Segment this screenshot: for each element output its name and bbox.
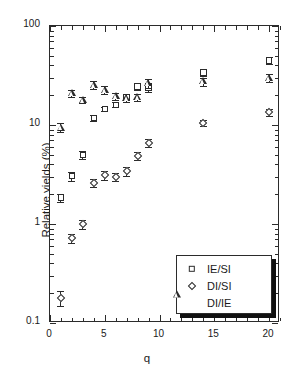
error-bar-cap-lower xyxy=(266,116,273,117)
y-tick-minor-right xyxy=(275,239,279,240)
error-bar xyxy=(115,173,116,182)
error-bar-cap-upper xyxy=(200,120,207,121)
error-bar-cap-lower xyxy=(101,111,108,112)
x-tick-label: 15 xyxy=(193,328,233,339)
y-tick-label: 1 xyxy=(0,216,40,227)
x-tick-minor-top xyxy=(149,26,150,30)
y-tick-minor-right xyxy=(275,177,279,178)
error-bar-cap-lower xyxy=(123,102,130,103)
y-tick-minor xyxy=(50,263,54,264)
x-tick-minor xyxy=(116,318,117,322)
data-point-di-si xyxy=(122,167,130,175)
error-bar xyxy=(71,90,72,97)
error-bar-cap-upper xyxy=(79,220,86,221)
error-bar-cap-upper xyxy=(112,173,119,174)
x-tick-minor-top xyxy=(116,26,117,30)
legend-entry: DI/SI xyxy=(177,277,273,295)
data-point-di-ie xyxy=(57,124,65,131)
error-bar-cap-upper xyxy=(68,234,75,235)
error-bar xyxy=(148,79,149,87)
legend-entry: DI/IE xyxy=(177,294,273,312)
x-tick-minor xyxy=(225,318,226,322)
y-tick-minor xyxy=(50,48,54,49)
error-bar xyxy=(269,74,270,82)
x-tick-minor-top xyxy=(192,26,193,30)
x-tick-minor xyxy=(236,318,237,322)
x-tick-label: 10 xyxy=(139,328,179,339)
data-point-ie-si xyxy=(145,84,151,90)
error-bar-cap-upper xyxy=(123,95,130,96)
y-tick-minor xyxy=(50,36,54,37)
error-bar-cap-upper xyxy=(123,167,130,168)
data-point-di-ie xyxy=(90,81,98,88)
y-tick-minor-right xyxy=(275,140,279,141)
error-bar-cap-lower xyxy=(101,180,108,181)
data-point-di-ie xyxy=(112,92,120,99)
data-point-di-ie xyxy=(144,79,152,86)
y-tick-label: 10 xyxy=(0,117,40,128)
error-bar-cap-lower xyxy=(101,94,108,95)
error-bar xyxy=(71,172,72,180)
x-tick-minor xyxy=(258,318,259,322)
y-tick-minor xyxy=(50,130,54,131)
legend-box: IE/SIDI/SIDI/IE xyxy=(176,255,272,314)
legend-marker-triangle-icon xyxy=(177,294,207,312)
error-bar-cap-upper xyxy=(79,97,86,98)
y-tick-minor xyxy=(50,140,54,141)
data-point-di-si xyxy=(79,220,87,228)
error-bar-cap-upper xyxy=(145,139,152,140)
x-tick-minor-top xyxy=(236,26,237,30)
y-tick-minor-right xyxy=(275,56,279,57)
error-bar-cap-upper xyxy=(123,94,130,95)
y-tick-minor xyxy=(50,147,54,148)
error-bar-cap-lower xyxy=(90,89,97,90)
y-tick-minor xyxy=(50,41,54,42)
error-bar-cap-lower xyxy=(68,243,75,244)
error-bar xyxy=(137,94,138,102)
error-bar xyxy=(269,109,270,116)
legend-marker-diamond-icon xyxy=(177,277,207,295)
y-tick-minor xyxy=(50,155,54,156)
y-tick-minor-right xyxy=(275,194,279,195)
x-tick-minor-top xyxy=(127,26,128,30)
data-point-ie-si xyxy=(69,173,75,179)
data-point-di-si xyxy=(199,119,207,127)
error-bar xyxy=(137,83,138,89)
data-point-di-si xyxy=(101,171,109,179)
y-tick-minor-right xyxy=(275,155,279,156)
error-bar-cap-upper xyxy=(90,115,97,116)
error-bar xyxy=(115,93,116,101)
y-tick-minor-right xyxy=(275,31,279,32)
error-bar xyxy=(126,167,127,176)
x-axis-title: q xyxy=(0,352,294,364)
error-bar-cap-lower xyxy=(112,181,119,182)
error-bar-cap-lower xyxy=(266,82,273,83)
x-tick-minor xyxy=(83,318,84,322)
data-point-di-ie xyxy=(122,94,130,101)
y-tick-minor xyxy=(50,164,54,165)
error-bar-cap-upper xyxy=(79,151,86,152)
x-tick-minor-top xyxy=(170,26,171,30)
data-point-di-si xyxy=(133,151,141,159)
x-tick-minor xyxy=(192,318,193,322)
error-bar xyxy=(269,57,270,64)
x-tick-minor xyxy=(94,318,95,322)
error-bar xyxy=(93,179,94,187)
x-tick-minor xyxy=(61,318,62,322)
y-tick-label: 0.1 xyxy=(0,315,40,326)
y-tick-minor xyxy=(50,276,54,277)
error-bar-cap-upper xyxy=(266,57,273,58)
y-tick-minor-right xyxy=(275,48,279,49)
legend-label: DI/SI xyxy=(207,280,231,292)
y-tick-minor-right xyxy=(275,234,279,235)
legend-entry: IE/SI xyxy=(177,260,273,278)
data-point-di-ie xyxy=(79,96,87,103)
x-tick-minor xyxy=(203,318,204,322)
x-tick-label: 0 xyxy=(29,328,69,339)
x-tick-major-top xyxy=(50,26,51,32)
legend-label: DI/IE xyxy=(207,297,231,309)
error-bar xyxy=(126,94,127,101)
data-point-ie-si xyxy=(266,57,272,63)
x-tick-minor-top xyxy=(258,26,259,30)
data-point-di-ie xyxy=(133,93,141,100)
